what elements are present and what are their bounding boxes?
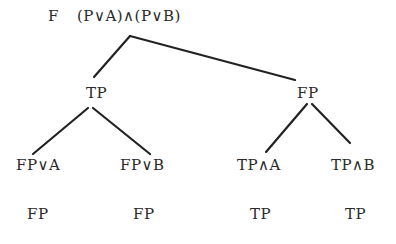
- node-fp-or-b: FP∨B: [120, 156, 165, 174]
- root-prefix: F: [48, 7, 59, 25]
- edge-tp-to-fpvb: [93, 108, 150, 154]
- node-tp: TP: [86, 84, 107, 102]
- root-formula: (P∨A)∧(P∨B): [77, 7, 181, 25]
- edge-root-to-fp: [130, 36, 295, 80]
- edge-fp-to-tpaa: [266, 104, 307, 152]
- leaf-tp-2: TP: [345, 205, 366, 223]
- node-fp: FP: [297, 84, 319, 102]
- edge-fp-to-tpab: [312, 104, 350, 143]
- edge-root-to-tp: [94, 36, 130, 77]
- leaf-fp-1: FP: [27, 205, 49, 223]
- tree-edges: [0, 0, 396, 244]
- node-tp-and-b: TP∧B: [331, 156, 375, 174]
- edge-tp-to-fpva: [33, 108, 88, 154]
- truth-tree-diagram: F (P∨A)∧(P∨B) TP FP FP∨A FP∨B TP∧A TP∧B …: [0, 0, 396, 244]
- leaf-tp-1: TP: [250, 205, 271, 223]
- node-fp-or-a: FP∨A: [16, 156, 60, 174]
- leaf-fp-2: FP: [133, 205, 155, 223]
- node-tp-and-a: TP∧A: [237, 156, 281, 174]
